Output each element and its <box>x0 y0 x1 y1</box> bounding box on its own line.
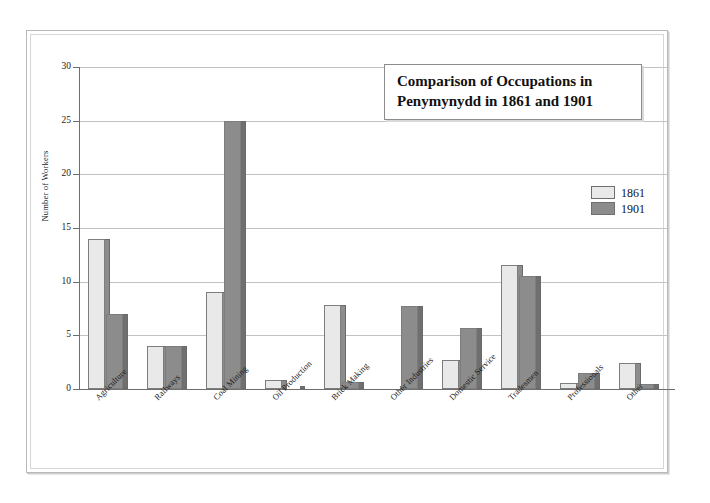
y-axis-tick-label: 10 <box>27 277 71 287</box>
bar-face <box>501 265 518 390</box>
chart-title-line-1: Comparison of Occupations in <box>397 72 631 92</box>
chart-legend: 18611901 <box>587 183 649 218</box>
bar-group <box>256 67 315 389</box>
bar-group <box>315 67 374 389</box>
figure-frame: 051015202530 Number of Workers Agricultu… <box>26 30 668 473</box>
bar-face <box>88 239 105 389</box>
bar-group <box>138 67 197 389</box>
bar-face <box>206 292 223 389</box>
y-axis-tick-label: 0 <box>27 384 71 394</box>
chart-title-box: Comparison of Occupations in Penymynydd … <box>384 64 642 120</box>
bar-side-shadow <box>241 121 246 389</box>
y-axis-tick-label: 5 <box>27 330 71 340</box>
bar-side-shadow <box>359 382 364 390</box>
legend-swatch-1861 <box>591 186 615 199</box>
bar-side-shadow <box>477 328 482 389</box>
legend-label-1861: 1861 <box>621 187 645 199</box>
bar-side-shadow <box>182 346 187 389</box>
bar-side-shadow <box>654 384 659 389</box>
bar-1901 <box>224 121 241 389</box>
bar-1861 <box>324 305 341 389</box>
legend-entry-1901: 1901 <box>591 202 645 215</box>
bar-face <box>147 346 164 389</box>
bar-side-shadow <box>341 305 346 389</box>
bar-1861 <box>501 265 518 390</box>
y-axis-tick-label: 25 <box>27 116 71 126</box>
y-axis-tick-label: 30 <box>27 62 71 72</box>
bar-side-shadow <box>300 386 305 389</box>
legend-entry-1861: 1861 <box>591 186 645 199</box>
bar-1861 <box>88 239 105 389</box>
bar-group <box>197 67 256 389</box>
bar-1861 <box>206 292 223 389</box>
legend-label-1901: 1901 <box>621 203 645 215</box>
bar-face <box>324 305 341 389</box>
chart-title-line-2: Penymynydd in 1861 and 1901 <box>397 92 631 112</box>
bar-chart: 051015202530 Number of Workers Agricultu… <box>27 31 669 474</box>
legend-swatch-1901 <box>591 202 615 215</box>
bar-face <box>224 121 241 389</box>
y-axis-title: Number of Workers <box>40 126 50 246</box>
bar-1861 <box>147 346 164 389</box>
bar-group <box>79 67 138 389</box>
